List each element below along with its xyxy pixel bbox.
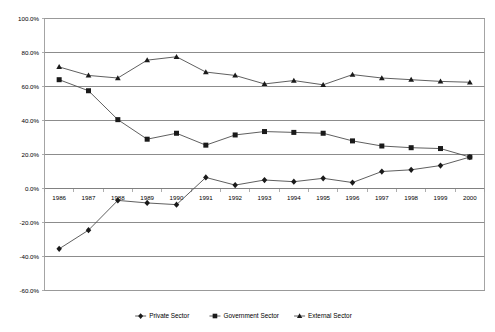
y-axis-tick-label: 0.0% (25, 185, 40, 192)
y-axis-tick-label: 20.0% (21, 151, 39, 158)
y-axis-tick-label: -60.0% (19, 287, 39, 294)
x-axis-tick-label: 1986 (52, 194, 66, 201)
x-axis-tick-label: 1995 (316, 194, 330, 201)
data-point-marker (467, 155, 472, 160)
x-axis-tick-label: 1987 (82, 194, 96, 201)
data-point-marker (262, 129, 267, 134)
x-axis-tick-label: 1994 (287, 194, 301, 201)
chart-background (0, 0, 495, 332)
x-axis-tick-label: 2000 (463, 194, 477, 201)
data-point-marker (86, 88, 91, 93)
data-point-marker (350, 138, 355, 143)
x-axis-tick-label: 1993 (258, 194, 272, 201)
y-axis-tick-label: 100.0% (18, 15, 39, 22)
data-point-marker (379, 144, 384, 149)
data-point-marker (174, 131, 179, 136)
data-point-marker (213, 314, 218, 319)
x-axis-tick-label: 1998 (404, 194, 418, 201)
y-axis-tick-label: 40.0% (21, 117, 39, 124)
x-axis-tick-label: 1989 (140, 194, 154, 201)
x-axis-tick-label: 1991 (199, 194, 213, 201)
legend-item-label: Private Sector (149, 312, 190, 319)
x-axis-tick-label: 1997 (375, 194, 389, 201)
data-point-marker (145, 137, 150, 142)
legend-item-label: Government Sector (223, 312, 279, 319)
legend-item-label: External Sector (308, 312, 353, 319)
data-point-marker (203, 143, 208, 148)
data-point-marker (409, 145, 414, 150)
data-point-marker (438, 146, 443, 151)
data-point-marker (233, 132, 238, 137)
y-axis-tick-label: -20.0% (19, 219, 39, 226)
data-point-marker (57, 77, 62, 82)
x-axis-tick-label: 1992 (228, 194, 242, 201)
y-axis-tick-label: -40.0% (19, 253, 39, 260)
line-chart: 100.0%80.0%60.0%40.0%20.0%0.0%-20.0%-40.… (0, 0, 495, 332)
y-axis-tick-label: 80.0% (21, 49, 39, 56)
data-point-marker (115, 117, 120, 122)
x-axis-tick-label: 1996 (346, 194, 360, 201)
chart-container: 100.0%80.0%60.0%40.0%20.0%0.0%-20.0%-40.… (0, 0, 495, 332)
data-point-marker (321, 131, 326, 136)
y-axis-tick-label: 60.0% (21, 83, 39, 90)
x-axis-tick-label: 1999 (434, 194, 448, 201)
data-point-marker (291, 130, 296, 135)
chart-legend: Private SectorGovernment SectorExternal … (135, 312, 353, 319)
